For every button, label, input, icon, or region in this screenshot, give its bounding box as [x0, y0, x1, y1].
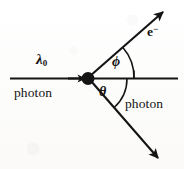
incident-photon-label: photon [14, 86, 52, 100]
electron-charge-superscript: − [153, 24, 158, 34]
compton-scattering-figure: λ0 photon e− ϕ θ photon [0, 0, 184, 169]
lambda-glyph: λ [36, 51, 43, 67]
lambda-subscript: 0 [43, 58, 48, 68]
interaction-vertex-dot [82, 72, 95, 85]
phi-angle-arc [123, 47, 134, 78]
scattered-electron-ray [90, 12, 163, 76]
electron-label: e− [147, 25, 158, 39]
phi-angle-label: ϕ [112, 55, 120, 69]
theta-angle-label: θ [99, 85, 106, 99]
incident-wavelength-label: λ0 [36, 52, 47, 68]
scattered-photon-label: photon [125, 97, 163, 111]
